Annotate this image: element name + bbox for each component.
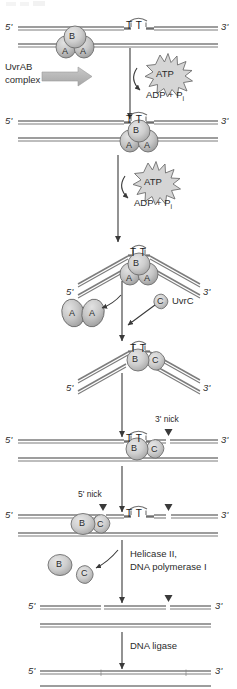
step-2-translocation (18, 112, 218, 152)
top-strand-7 (40, 606, 211, 609)
five-prime-label-8: 5' (28, 666, 36, 676)
released-uvrb-label: B (56, 559, 62, 569)
bottom-strand-7 (40, 624, 211, 627)
thymine-dimer-label-3: T T (130, 247, 146, 258)
adp-pi-label-1: ADP + Pi (146, 90, 184, 104)
diagram-graphics (0, 0, 237, 689)
thymine-dimer-label-1: T T (126, 20, 142, 31)
atp-curve-2 (122, 176, 128, 198)
step-8-ligation (40, 670, 211, 687)
uvrb-label-4: B (132, 354, 138, 364)
released-uvra-dimer (59, 297, 107, 329)
top-strand-8 (40, 670, 211, 677)
five-prime-label-6: 5' (5, 510, 13, 520)
uvrab-block-arrow (42, 67, 92, 86)
uvra-label-2a: A (126, 140, 132, 150)
three-prime-nick-marker (165, 429, 173, 436)
three-prime-label-3: 3' (203, 287, 211, 297)
top-strand-2 (18, 121, 218, 124)
thymine-dimer-label-6: T T (126, 508, 142, 519)
top-strand-1 (18, 27, 218, 30)
uvrab-complex-label-line1: UvrAB (5, 62, 32, 72)
uvrc-label: UvrC (172, 296, 194, 306)
remaining-nick-marker (165, 595, 173, 602)
thymine-dimer-label-2: T T (126, 114, 142, 125)
uvrb-label-2: B (133, 125, 139, 135)
bottom-strand-6 (18, 533, 218, 536)
atp-curve-1 (134, 68, 140, 90)
five-prime-label-7: 5' (28, 601, 36, 611)
three-prime-label-1: 3' (221, 22, 229, 32)
top-strand-6 (18, 515, 218, 518)
bottom-strand-5 (18, 458, 218, 461)
uvra-label-1a: A (62, 46, 68, 56)
released-uvra-label-b: A (89, 308, 95, 318)
atp-label-2: ATP (144, 177, 162, 187)
five-prime-label-4: 5' (66, 383, 74, 393)
helicase-label-line2: DNA polymerase I (130, 562, 207, 572)
uvra-label-3a: A (126, 273, 132, 283)
five-prime-label-2: 5' (5, 116, 13, 126)
top-strand-5 (18, 440, 218, 443)
three-prime-label-5: 3' (221, 435, 229, 445)
uvrc-label-6: C (97, 519, 104, 529)
released-uvrc-label: C (81, 568, 88, 578)
three-prime-label-4: 3' (203, 383, 211, 393)
three-prime-label-6: 3' (221, 510, 229, 520)
ner-pathway-diagram: 5' 3' T T B A A UvrAB complex ATP ADP + … (0, 0, 237, 689)
uvra-label-2b: A (144, 140, 150, 150)
uvrb-label-6: B (79, 518, 85, 528)
bottom-strand-1 (18, 44, 218, 47)
page-edge-artifact (6, 1, 45, 6)
uvra-label-1b: A (80, 46, 86, 56)
step-5-three-prime-incision (18, 429, 218, 461)
three-prime-label-2: 3' (221, 116, 229, 126)
released-uvra-label-a: A (69, 308, 75, 318)
thymine-dimer-label-4: T T (130, 343, 146, 354)
five-prime-nick-marker (99, 504, 107, 511)
uvrb-label-1: B (69, 31, 75, 41)
uvra-label-3b: A (144, 273, 150, 283)
uvrb-label-3: B (133, 258, 139, 268)
five-prime-label-1: 5' (5, 22, 13, 32)
dna-ligase-label: DNA ligase (130, 641, 177, 651)
five-prime-label-3: 5' (66, 287, 74, 297)
uvrc-entry-arrow (128, 305, 155, 325)
adp-pi-label-2: ADP + Pi (134, 198, 172, 212)
five-prime-nick-label: 5' nick (78, 489, 102, 499)
five-prime-label-5: 5' (5, 435, 13, 445)
step-1-recognition (18, 18, 218, 58)
step-6-five-prime-incision (18, 504, 218, 536)
three-prime-nick-label: 3' nick (155, 414, 179, 424)
helicase-label-line1: Helicase II, (130, 549, 177, 559)
uvrc-subunit-label: C (157, 296, 164, 306)
three-prime-label-7: 3' (215, 601, 223, 611)
three-prime-nick-marker-6 (165, 504, 173, 511)
uvrc-label-4: C (152, 355, 159, 365)
uvrb-label-5: B (131, 443, 137, 453)
atp-label-1: ATP (156, 69, 174, 79)
uvra-release-arrow (102, 295, 121, 308)
uvrab-complex-label-line2: complex (5, 75, 40, 85)
bc-release-arrow (96, 550, 118, 568)
bottom-strand-2 (18, 138, 218, 141)
uvrc-label-5: C (151, 444, 158, 454)
three-prime-label-8: 3' (215, 666, 223, 676)
step-7-excision-resynthesis (40, 595, 211, 627)
